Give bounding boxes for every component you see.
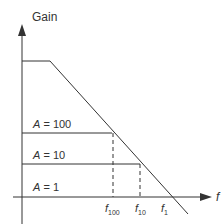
y-axis-arrow-icon xyxy=(18,24,26,36)
freq-label-f100: f100 xyxy=(105,202,120,216)
gain-label-1: A = 1 xyxy=(32,181,59,193)
rolloff-line xyxy=(50,61,188,214)
gain-bandwidth-diagram: Gain f A = 100 A = 10 A = 1 f100 f10 f1 xyxy=(0,0,224,224)
x-axis-label: f xyxy=(216,190,221,204)
freq-label-f10: f10 xyxy=(135,202,146,216)
freq-label-f1: f1 xyxy=(161,202,168,216)
gain-label-100: A = 100 xyxy=(32,118,71,130)
x-axis-arrow-icon xyxy=(200,193,212,201)
y-axis-label: Gain xyxy=(32,10,57,24)
gain-label-10: A = 10 xyxy=(32,149,65,161)
